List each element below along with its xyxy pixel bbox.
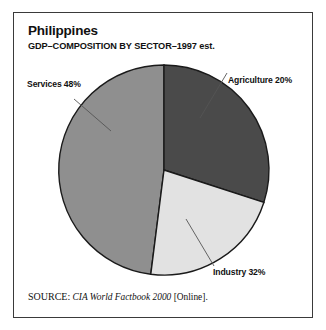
source-availability-note: [Online]. bbox=[174, 292, 208, 302]
pie-label-industry: Industry 32% bbox=[213, 267, 265, 277]
pie-label-services: Services 48% bbox=[27, 79, 81, 89]
figure-frame: Philippines GDP–COMPOSITION BY SECTOR–19… bbox=[13, 12, 313, 318]
source-label: SOURCE: bbox=[28, 291, 70, 302]
pie-slice-services[interactable] bbox=[59, 65, 164, 274]
source-note: SOURCE: CIA World Factbook 2000 [Online]… bbox=[28, 291, 208, 302]
pie-label-agriculture: Agriculture 20% bbox=[228, 75, 292, 85]
pie-chart bbox=[14, 13, 314, 319]
source-work-title: CIA World Factbook 2000 bbox=[73, 292, 172, 302]
